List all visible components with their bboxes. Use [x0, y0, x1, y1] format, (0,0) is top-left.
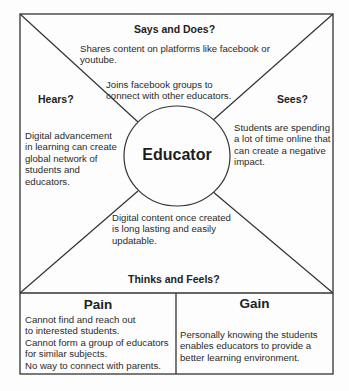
hears-heading: Hears? — [38, 93, 74, 105]
diagonal-top-left — [20, 14, 138, 122]
says-and-does-item-1: Shares content on platforms like faceboo… — [80, 43, 280, 66]
sees-heading: Sees? — [277, 93, 308, 105]
gain-heading: Gain — [176, 296, 333, 311]
says-and-does-heading: Says and Does? — [134, 23, 215, 35]
gain-item-1: Personally knowing the students enables … — [180, 329, 330, 363]
pain-item-1: Cannot find and reach out to interested … — [25, 314, 145, 337]
diagonal-top-right — [212, 14, 333, 121]
pain-item-3: No way to connect with parents. — [25, 360, 175, 371]
pain-list: Cannot find and reach out to interested … — [25, 314, 175, 371]
hears-item-1: Digital advancement in learning can crea… — [25, 130, 122, 187]
sees-item-1: Students are spending a lot of time onli… — [234, 122, 332, 168]
center-label: Educator — [125, 146, 229, 164]
thinks-and-feels-item-1: Digital content once created is long las… — [112, 212, 240, 246]
pain-item-2: Cannot form a group of educators for sim… — [25, 337, 173, 360]
pain-heading: Pain — [20, 297, 176, 312]
says-and-does-item-2: Joins facebook groups to connect with ot… — [106, 79, 246, 102]
thinks-and-feels-heading: Thinks and Feels? — [128, 273, 220, 285]
